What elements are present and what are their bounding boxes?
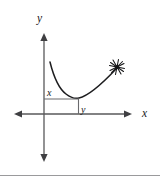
coordinate-plane-diagram: y x x y [0, 0, 160, 179]
y-axis-label: y [36, 12, 43, 25]
x-axis-arrow-right [124, 110, 132, 117]
footer-spacer [0, 177, 160, 179]
starburst-icon [110, 60, 125, 75]
x-axis-label: x [141, 107, 148, 119]
y-axis-arrow-bottom [40, 154, 47, 162]
x-axis-arrow-left [14, 110, 22, 117]
segment-label-x: x [46, 87, 52, 98]
x-axis [14, 110, 132, 117]
figure-root: y x x y [0, 0, 160, 179]
parabola-curve [50, 62, 116, 98]
segment-label-y: y [80, 104, 86, 115]
footer-divider [0, 175, 160, 176]
y-axis-arrow-top [40, 33, 47, 41]
